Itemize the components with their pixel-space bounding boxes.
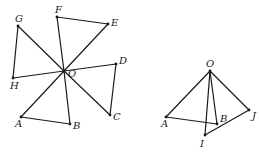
label-i: I <box>199 138 205 149</box>
segment-gh <box>13 26 18 78</box>
point-i <box>204 134 207 137</box>
point-o <box>63 70 66 73</box>
segment-cd <box>110 64 116 115</box>
point-o <box>209 70 212 73</box>
segment-ab <box>166 117 217 124</box>
point-f <box>56 16 59 19</box>
point-j <box>248 109 251 112</box>
label-h: H <box>9 80 19 91</box>
segment-ho <box>13 71 64 78</box>
segment-oe <box>64 24 108 71</box>
label-a: A <box>160 118 168 129</box>
point-h <box>12 77 15 80</box>
label-d: D <box>118 55 127 66</box>
point-b <box>69 123 72 126</box>
label-f: F <box>54 4 63 15</box>
left-figure: OABCDEFGH <box>9 4 127 131</box>
label-c: C <box>113 111 121 122</box>
segment-fo <box>57 17 64 71</box>
segment-og <box>18 26 64 71</box>
segment-jo <box>210 71 249 110</box>
point-d <box>115 63 118 66</box>
label-a: A <box>14 118 22 129</box>
label-g: G <box>15 13 23 24</box>
label-j: J <box>250 110 257 121</box>
label-e: E <box>110 17 119 28</box>
label-b: B <box>72 120 80 131</box>
point-e <box>107 23 110 26</box>
point-g <box>17 25 20 28</box>
label-b: B <box>219 113 227 124</box>
label-o: O <box>68 68 76 79</box>
segment-ab <box>21 117 70 124</box>
geometry-diagram: OABCDEFGH OABIJ <box>0 0 259 153</box>
segment-oi <box>205 71 210 135</box>
point-b <box>216 123 219 126</box>
segment-oa <box>166 71 210 117</box>
right-figure: OABIJ <box>160 58 257 149</box>
point-c <box>109 114 112 117</box>
label-o: O <box>206 58 214 69</box>
segment-ef <box>57 17 108 24</box>
segment-bo <box>210 71 217 124</box>
segment-oa <box>21 71 64 117</box>
